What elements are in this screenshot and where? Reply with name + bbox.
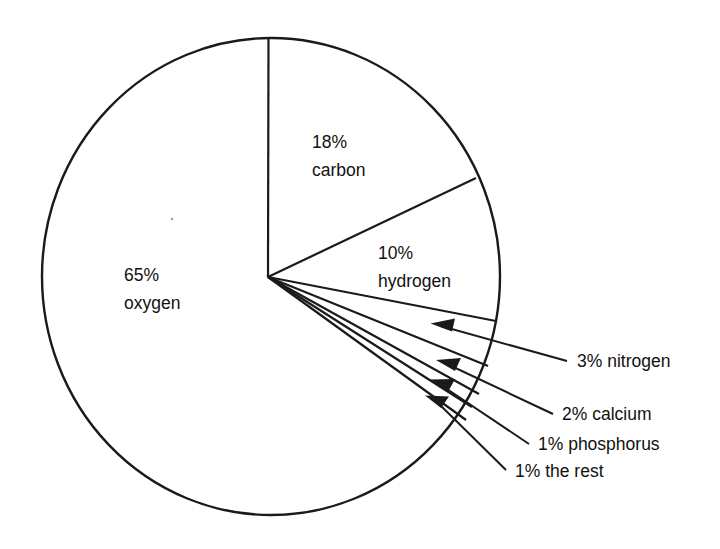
slice-label-oxygen-name: oxygen	[124, 293, 180, 313]
chart-canvas: 18% carbon 10% hydrogen 65% oxygen 3% ni…	[0, 0, 720, 549]
slice-label-hydrogen-name: hydrogen	[378, 271, 451, 291]
slice-label-carbon-percent: 18%	[312, 132, 347, 152]
callout-label-calcium: 2% calcium	[562, 404, 651, 424]
slice-label-hydrogen-percent: 10%	[378, 243, 413, 263]
arrow-head-nitrogen	[431, 319, 456, 332]
callout-label-rest: 1% the rest	[515, 461, 604, 481]
callout-label-nitrogen: 3% nitrogen	[577, 351, 670, 371]
scan-speck	[171, 218, 173, 220]
arrow-head-phosphorus	[431, 379, 456, 392]
slice-label-oxygen-percent: 65%	[124, 265, 159, 285]
divider-oxygen-carbon	[268, 38, 269, 277]
pie-chart-figure: 18% carbon 10% hydrogen 65% oxygen 3% ni…	[0, 0, 720, 549]
leader-line-rest	[436, 401, 506, 470]
callout-label-phosphorus: 1% phosphorus	[538, 434, 660, 454]
slice-label-carbon-name: carbon	[312, 160, 366, 180]
leader-line-phosphorus	[441, 385, 529, 444]
divider-carbon-hydrogen	[268, 178, 476, 277]
divider-calcium-phosphorus	[268, 277, 479, 394]
